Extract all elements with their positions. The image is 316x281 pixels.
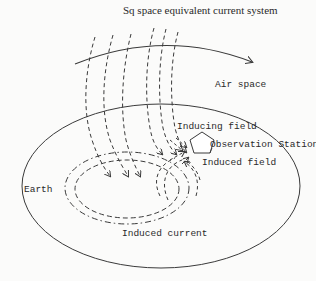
inducing-field-lines [86, 28, 186, 176]
observation-station-label: Observation Station [210, 140, 316, 150]
earth-label: Earth [24, 185, 53, 195]
induced-field-label: Induced field [202, 158, 276, 168]
air-space-label: Air space [215, 80, 266, 90]
earth-outline [22, 104, 300, 268]
diagram-title: Sq space equivalent current system [123, 5, 278, 16]
induced-current-label: Induced current [122, 229, 208, 239]
inducing-field-label: Inducing field [177, 122, 257, 132]
induced-current-loops [65, 152, 189, 224]
diagram-root: Sq space equivalent current system Air s… [0, 0, 316, 281]
air-space-arc [75, 45, 252, 64]
